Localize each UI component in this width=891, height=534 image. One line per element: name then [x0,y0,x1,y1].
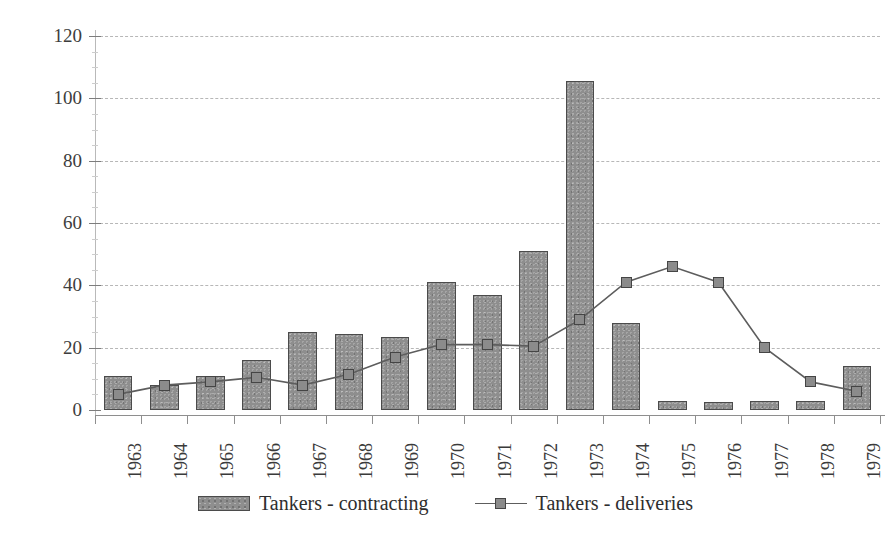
data-point-marker [436,339,447,350]
x-axis-tick-label: 1979 [865,443,883,479]
x-axis-tick [557,415,558,424]
legend-label-deliveries: Tankers - deliveries [536,492,693,515]
x-axis-tick-label: 1976 [726,443,744,479]
legend-item-contracting[interactable]: Tankers - contracting [198,492,429,515]
line-marker-icon [475,496,527,511]
x-axis-tick [834,415,835,424]
x-axis-tick [603,415,604,424]
x-axis-tick [234,415,235,424]
data-point-marker [159,380,170,391]
x-axis-tick-label: 1971 [496,443,514,479]
legend-label-contracting: Tankers - contracting [259,492,429,515]
data-point-marker [667,261,678,272]
y-axis-tick-label: 120 [54,26,83,45]
y-axis-tick-label: 40 [63,275,82,294]
x-axis-tick [95,415,96,424]
deliveries-line-path [118,267,857,395]
data-point-marker [574,314,585,325]
data-point-marker [528,341,539,352]
x-axis-tick [326,415,327,424]
data-point-marker [759,342,770,353]
x-axis-tick-label: 1969 [403,443,421,479]
data-point-marker [621,277,632,288]
data-point-marker [251,372,262,383]
data-point-marker [113,389,124,400]
x-axis-tick [372,415,373,424]
bar-swatch-icon [198,496,250,511]
y-axis-labels: 020406080100120 [0,0,82,534]
x-axis-tick [649,415,650,424]
x-axis-tick-label: 1975 [680,443,698,479]
y-axis-tick-label: 0 [73,400,83,419]
x-axis-labels: 1963196419651966196719681969197019711972… [95,427,885,487]
x-axis-tick [788,415,789,424]
tanker-contracting-deliveries-chart: 020406080100120 196319641965196619671968… [0,0,891,534]
x-axis-tick-label: 1968 [357,443,375,479]
x-axis-tick-label: 1967 [311,443,329,479]
x-axis-ticks [95,415,885,425]
x-axis-tick [418,415,419,424]
x-axis-tick [141,415,142,424]
x-axis-tick [695,415,696,424]
x-axis-tick-label: 1966 [265,443,283,479]
x-axis-tick-label: 1964 [172,443,190,479]
x-axis-tick [464,415,465,424]
data-point-marker [851,386,862,397]
x-axis-tick-label: 1965 [218,443,236,479]
x-axis-tick-label: 1974 [634,443,652,479]
x-axis-tick-label: 1972 [542,443,560,479]
data-point-marker [482,339,493,350]
y-axis-tick-label: 80 [63,151,82,170]
data-point-marker [297,380,308,391]
plot-area [95,36,880,410]
x-axis-tick-label: 1973 [588,443,606,479]
data-point-marker [805,376,816,387]
y-axis-tick-label: 20 [63,338,82,357]
x-axis-tick-label: 1978 [819,443,837,479]
chart-legend: Tankers - contracting Tankers - deliveri… [0,492,891,515]
x-axis-tick [187,415,188,424]
x-axis-tick-label: 1963 [126,443,144,479]
y-axis-tick-label: 100 [54,88,83,107]
data-point-marker [713,277,724,288]
x-axis-tick-label: 1970 [449,443,467,479]
y-axis-tick-label: 60 [63,213,82,232]
legend-item-deliveries[interactable]: Tankers - deliveries [475,492,693,515]
y-axis-tick [89,410,101,411]
x-axis-tick-label: 1977 [773,443,791,479]
data-point-marker [205,376,216,387]
line-series-deliveries [95,36,880,410]
x-axis-tick [511,415,512,424]
data-point-marker [343,369,354,380]
x-axis-tick [880,415,881,424]
x-axis-tick [741,415,742,424]
data-point-marker [390,352,401,363]
x-axis-tick [280,415,281,424]
